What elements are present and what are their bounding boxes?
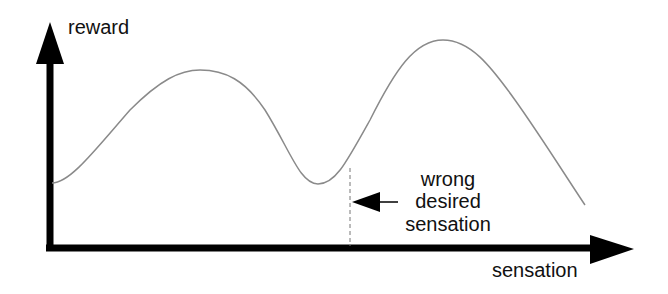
annotation-line-3: sensation	[405, 213, 491, 235]
x-axis-label: sensation	[492, 259, 578, 281]
reward-sensation-diagram: reward sensation wrong desired sensation	[0, 0, 668, 294]
pointer-arrowhead	[352, 192, 380, 212]
y-axis-arrowhead	[36, 22, 64, 64]
x-axis-arrowhead	[590, 235, 634, 264]
y-axis-label: reward	[68, 16, 129, 38]
annotation-line-1: wrong	[420, 168, 475, 190]
annotation-line-2: desired	[415, 190, 481, 212]
reward-curve	[52, 40, 585, 205]
